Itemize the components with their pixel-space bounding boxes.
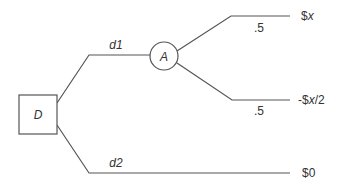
payoff-lower-prefix: -$ — [298, 93, 309, 107]
payoff-upper-var: x — [307, 9, 315, 23]
payoff-d2: $0 — [302, 166, 316, 180]
branch-d2-label: d2 — [109, 156, 123, 170]
decision-tree-diagram: D A d1 d2 .5 .5 $x -$x/2 $0 — [0, 0, 344, 191]
probability-lower: .5 — [254, 104, 264, 118]
branch-d2-line — [57, 125, 290, 173]
payoff-lower: -$x/2 — [298, 93, 325, 107]
chance-branch-lower-line — [177, 63, 290, 100]
payoff-lower-suffix: /2 — [315, 93, 325, 107]
decision-node-label: D — [34, 108, 43, 122]
payoff-upper: $x — [301, 9, 315, 23]
chance-branch-upper-line — [177, 16, 290, 51]
branch-d1-line — [57, 55, 150, 103]
chance-node-label: A — [159, 50, 168, 64]
probability-upper: .5 — [254, 21, 264, 35]
branch-d1-label: d1 — [109, 38, 122, 52]
